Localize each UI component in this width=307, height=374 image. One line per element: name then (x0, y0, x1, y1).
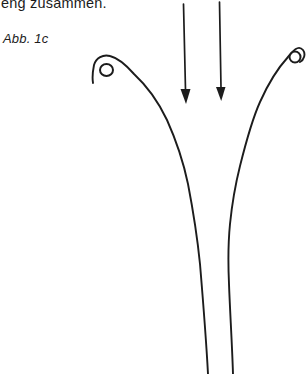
down-arrow-left-shaft (184, 4, 186, 90)
left-spiral-loop (100, 64, 113, 76)
down-arrow-right-shaft (220, 2, 222, 88)
scanned-page: eng zusammen. Abb. 1c (0, 0, 307, 374)
left-wall-curve (93, 55, 208, 374)
ink-fills (181, 87, 226, 104)
figure-drawing (0, 0, 307, 374)
ink-strokes (93, 2, 305, 374)
down-arrow-left-head (181, 89, 191, 104)
right-spiral-loop (290, 52, 301, 63)
down-arrow-right-head (216, 87, 226, 101)
right-wall-curve (228, 48, 304, 374)
